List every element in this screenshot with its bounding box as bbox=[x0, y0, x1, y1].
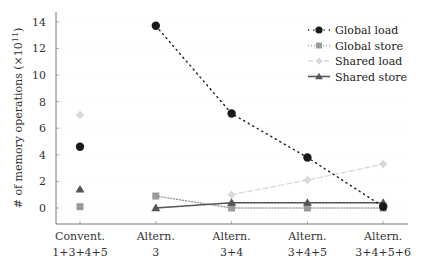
legend-item: Global store bbox=[308, 40, 403, 53]
x-tick-label-line1: Altern. bbox=[136, 230, 175, 243]
legend-label: Global load bbox=[335, 24, 398, 37]
circle-marker-icon bbox=[379, 202, 387, 210]
legend: Global loadGlobal storeShared loadShared… bbox=[308, 24, 407, 84]
circle-marker-icon bbox=[315, 26, 322, 33]
legend-label: Shared store bbox=[335, 71, 407, 84]
series-line bbox=[156, 26, 383, 207]
triangle-marker-icon bbox=[76, 185, 85, 193]
square-marker-icon bbox=[152, 193, 159, 200]
y-tick-label: 4 bbox=[39, 149, 46, 162]
y-tick-label: 14 bbox=[32, 16, 46, 29]
y-tick-label: 12 bbox=[32, 42, 46, 55]
y-tick-label: 10 bbox=[32, 69, 46, 82]
x-tick-label-line1: Convent. bbox=[55, 230, 105, 243]
y-tick-label: 6 bbox=[39, 122, 46, 135]
circle-marker-icon bbox=[227, 109, 235, 117]
star-marker-icon bbox=[227, 190, 236, 199]
y-tick-label: 0 bbox=[39, 202, 46, 215]
x-tick-labels: Convent.1+3+4+5Altern.3Altern.3+4Altern.… bbox=[52, 221, 411, 259]
legend-label: Global store bbox=[335, 40, 403, 53]
star-marker-icon bbox=[76, 110, 85, 119]
star-marker-icon bbox=[303, 176, 312, 185]
x-tick-label-line2: 3+4+5 bbox=[288, 246, 327, 259]
x-tick-label-line2: 1+3+4+5 bbox=[52, 246, 108, 259]
legend-item: Shared store bbox=[308, 71, 407, 84]
circle-marker-icon bbox=[303, 153, 311, 161]
x-tick-label-line2: 3+4 bbox=[220, 246, 243, 259]
star-marker-icon bbox=[379, 160, 388, 169]
memory-operations-chart: 02468101214 Convent.1+3+4+5Altern.3Alter… bbox=[0, 0, 426, 268]
y-axis-title: # of memory operations (×1011) bbox=[11, 28, 25, 209]
x-tick-label-line1: Altern. bbox=[211, 230, 250, 243]
x-tick-label-line1: Altern. bbox=[363, 230, 402, 243]
legend-item: Global load bbox=[308, 24, 398, 37]
x-tick-label-line2: 3 bbox=[152, 246, 159, 259]
y-tick-label: 2 bbox=[39, 175, 46, 188]
star-marker-icon bbox=[315, 57, 323, 65]
x-tick-label-line2: 3+4+5+6 bbox=[355, 246, 411, 259]
legend-label: Shared load bbox=[335, 55, 402, 68]
y-tick-labels: 02468101214 bbox=[32, 16, 59, 215]
series-line bbox=[156, 203, 383, 208]
square-marker-icon bbox=[316, 43, 322, 49]
legend-item: Shared load bbox=[308, 55, 402, 68]
x-tick-label-line1: Altern. bbox=[287, 230, 326, 243]
y-tick-label: 8 bbox=[39, 96, 46, 109]
circle-marker-icon bbox=[152, 22, 160, 30]
square-marker-icon bbox=[77, 203, 84, 210]
circle-marker-icon bbox=[76, 143, 84, 151]
